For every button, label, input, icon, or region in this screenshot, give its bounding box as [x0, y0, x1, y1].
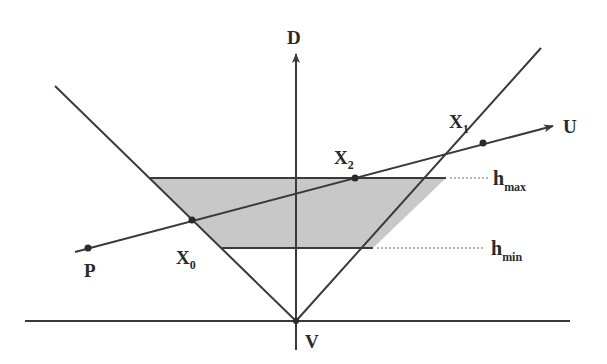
label-hmax: hmax	[493, 167, 526, 194]
vertex-label-v: V	[305, 331, 319, 352]
label-p: P	[84, 260, 96, 281]
axis-label-d: D	[287, 27, 301, 48]
label-x2: X2	[334, 147, 354, 172]
point-x2	[352, 175, 359, 182]
shaded-region	[150, 178, 446, 248]
label-u: U	[563, 116, 577, 137]
label-hmin: hmin	[491, 237, 522, 264]
point-p	[85, 245, 92, 252]
point-x0	[189, 217, 196, 224]
label-x0: X0	[176, 247, 196, 272]
label-x1: X1	[449, 111, 469, 136]
point-x1	[480, 140, 487, 147]
cone-diagram: D V P U X0 X2 X1 hmax hmin	[0, 0, 607, 364]
point-v	[293, 318, 299, 324]
